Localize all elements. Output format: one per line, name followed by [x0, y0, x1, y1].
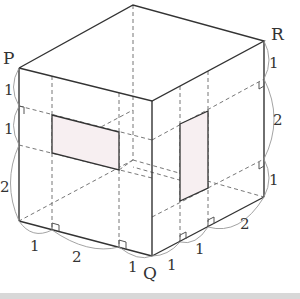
dim-front-v3: 2 — [0, 178, 10, 196]
dim-front-h3: 1 — [128, 258, 138, 276]
dim-right-h1: 1 — [167, 256, 177, 274]
cube-diagram: P R Q 1 1 2 1 2 1 1 2 1 1 1 2 — [0, 0, 300, 299]
dim-front-h1: 1 — [30, 237, 40, 255]
dim-right-v3: 1 — [269, 171, 279, 189]
bottom-border — [0, 293, 300, 299]
dim-front-v1: 1 — [4, 81, 14, 99]
vertex-label-r: R — [271, 24, 285, 44]
vertex-label-q: Q — [143, 263, 157, 283]
right-cross-section — [180, 111, 208, 201]
right-angle-marks — [19, 82, 264, 249]
dim-front-v2: 1 — [4, 120, 14, 138]
vertex-label-p: P — [3, 48, 14, 68]
dim-right-v2: 2 — [273, 111, 283, 129]
dim-right-h3: 2 — [240, 215, 250, 233]
dimension-arcs — [11, 41, 275, 258]
dim-right-v1: 1 — [269, 54, 279, 72]
dim-front-h2: 2 — [72, 248, 82, 266]
dim-right-h2: 1 — [195, 240, 205, 258]
